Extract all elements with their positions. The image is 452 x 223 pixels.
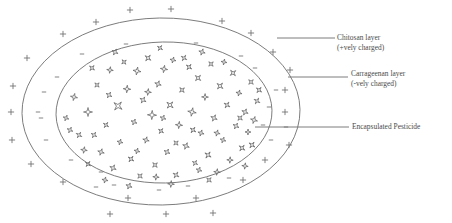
pesticide-particle [187,107,197,117]
plus-sign [93,19,99,25]
pesticide-particle [236,114,245,123]
pesticide-particle [84,108,93,117]
pesticide-particle [93,81,101,89]
pesticide-particle [159,114,167,122]
pesticide-particle [130,118,138,126]
pesticide-particle [181,141,190,150]
pesticide-particle [245,129,251,135]
pesticide-particle [184,62,193,71]
pesticide-particle [246,77,255,86]
label-carrageenan-line1: Carrageenan layer [351,69,405,78]
pesticide-particle [156,44,164,52]
pesticide-particle [163,148,172,157]
carrageenan-inner-ellipse [55,40,274,185]
plus-sign [163,211,169,217]
pesticide-particle [102,121,111,130]
figure-container: Chitosan layer (+vely charged) Carrageen… [0,0,452,223]
pesticide-particle [66,126,74,134]
pesticide-particle [241,162,248,169]
pesticide-particle [197,129,205,137]
plus-sign [262,157,268,163]
pesticide-particle [191,159,199,167]
pesticide-particle [209,113,218,122]
pesticide-particle [157,127,165,135]
pesticide-particle [228,68,238,78]
pesticide-particle [144,88,152,96]
pesticide-particle [222,100,231,109]
pesticide-particle [123,85,131,93]
pesticide-particle [132,66,141,75]
pesticide-particle [75,131,84,140]
pesticide-particle [198,48,206,56]
plus-sign [219,18,225,24]
pesticide-particle [126,154,135,163]
pesticide-particle [101,176,108,183]
plus-sign [282,109,288,115]
pesticide-particle [235,89,242,96]
pesticide-particle [136,172,145,181]
label-chitosan-line1: Chitosan layer [337,33,380,42]
pesticide-particle [80,146,88,154]
plus-sign [193,195,199,201]
pesticide-particle [220,58,227,65]
plus-sign [125,195,131,201]
pesticide-particle [213,129,221,137]
pesticide-particle [116,138,123,145]
plus-sign [60,31,66,37]
plus-sign [248,30,254,36]
encapsulated-pesticide-particles [62,44,263,190]
pesticide-particle [215,81,226,92]
pesticide-particle [227,157,234,164]
pesticide-particle [254,85,263,94]
plus-sign [8,109,14,115]
positive-charge-symbols [8,6,293,217]
pesticide-particle [193,73,203,83]
pesticide-particle [106,66,113,73]
pesticide-particle [175,121,183,129]
pesticide-particle [201,93,208,100]
pesticide-particle [125,182,134,191]
pesticide-particle [232,122,241,131]
pesticide-particle [169,56,177,64]
pesticide-particle [177,85,186,94]
pesticide-particle [172,139,180,147]
pesticide-particle [167,180,174,187]
plus-sign [9,137,15,143]
plus-sign [240,177,246,183]
label-chitosan-line2: (+vely charged) [337,43,384,53]
pesticide-particle [203,150,213,160]
pesticide-particle [152,173,159,180]
pesticide-particle [195,166,203,174]
plus-sign [10,83,16,89]
plus-sign [270,49,276,55]
plus-sign [127,7,133,13]
pesticide-particle [120,58,128,66]
label-pesticide-line1: Encapsulated Pesticide [352,122,420,131]
plus-sign [28,161,34,167]
pesticide-particle [237,143,247,153]
negative-charge-symbols [36,43,288,190]
pesticide-particle [154,80,163,89]
pesticide-particle [87,63,96,72]
pesticide-particle [160,65,168,73]
plus-sign [210,210,216,216]
pesticide-particle [150,160,159,169]
pesticide-particle [147,110,157,120]
pesticide-particle [252,96,261,105]
pesticide-particle [241,108,250,117]
pesticide-particle [164,99,176,111]
pesticide-particle [143,53,153,63]
pesticide-particle [70,93,79,102]
pesticide-particle [219,136,227,144]
pesticide-particle [111,99,126,114]
label-encapsulated-pesticide: Encapsulated Pesticide [352,122,420,132]
chitosan-outer-ellipse [21,16,302,207]
plus-sign [107,211,113,217]
pesticide-particle [105,91,114,100]
pesticide-particle [108,163,117,172]
pesticide-particle [207,60,216,69]
plus-sign [168,6,174,12]
label-chitosan-layer: Chitosan layer (+vely charged) [337,33,384,52]
plus-sign [282,87,288,93]
pesticide-particle [142,136,150,144]
